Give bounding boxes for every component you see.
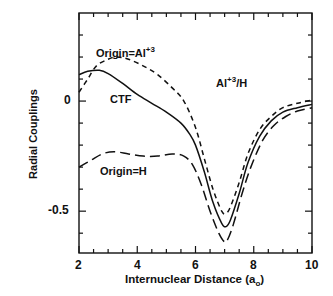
chart-canvas: [0, 0, 333, 296]
label-origin-h: Origin=H: [100, 165, 147, 177]
annotation-system: Al+3/H: [216, 75, 247, 89]
xtick-label-4: 4: [134, 258, 141, 272]
y-axis-label: Radial Couplings: [27, 89, 39, 179]
xtick-label-2: 2: [75, 258, 82, 272]
series-line-short-dash: [79, 57, 312, 214]
data-lines: [79, 57, 312, 243]
xtick-label-10: 10: [305, 258, 318, 272]
ytick-label-0: 0: [64, 93, 71, 107]
xtick-label-6: 6: [192, 258, 199, 272]
label-origin-al: Origin=Al+3: [96, 45, 155, 59]
x-axis-label: Internuclear Distance (ao): [125, 273, 264, 288]
label-ctf: CTF: [110, 93, 131, 105]
ytick-label-neg05: -0.5: [48, 203, 69, 217]
xtick-label-8: 8: [250, 258, 257, 272]
